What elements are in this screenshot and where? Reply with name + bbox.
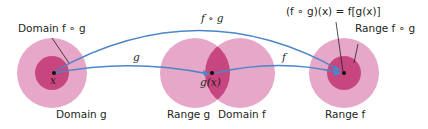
label-domain-f: Domain f — [218, 108, 266, 120]
label-point-x: x — [50, 74, 56, 86]
label-domain-g: Domain g — [56, 108, 107, 120]
point-gx — [210, 71, 214, 75]
label-range-fog: Range f ∘ g — [355, 22, 415, 34]
label-arrow-fog: f ∘ g — [200, 12, 224, 24]
label-range-f: Range f — [325, 108, 366, 120]
label-domain-fog: Domain f ∘ g — [18, 22, 86, 34]
composition-diagram: Domain f ∘ g Domain g Range g Domain f R… — [0, 0, 428, 129]
label-arrow-g: g — [133, 51, 140, 63]
label-range-g: Range g — [167, 108, 210, 120]
label-arrow-f: f — [281, 51, 288, 63]
label-point-gx: g(x) — [200, 76, 221, 88]
label-equation: (f ∘ g)(x) = f[g(x)] — [286, 5, 381, 17]
